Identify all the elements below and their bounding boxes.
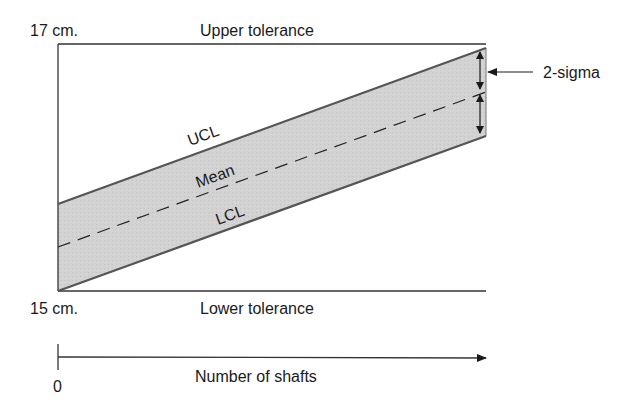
control-chart-diagram: 17 cm. Upper tolerance 15 cm. Lower tole… <box>0 0 642 418</box>
lower-tolerance-label: Lower tolerance <box>200 300 314 317</box>
x-axis-arrow <box>58 357 486 358</box>
x-axis-label: Number of shafts <box>195 368 317 385</box>
two-sigma-label: 2-sigma <box>543 64 600 81</box>
upper-tolerance-label: Upper tolerance <box>200 22 314 39</box>
ucl-label: UCL <box>185 122 221 149</box>
y-bottom-label: 15 cm. <box>30 300 78 317</box>
y-top-label: 17 cm. <box>30 22 78 39</box>
x-origin-label: 0 <box>53 378 62 395</box>
control-band <box>58 48 486 291</box>
